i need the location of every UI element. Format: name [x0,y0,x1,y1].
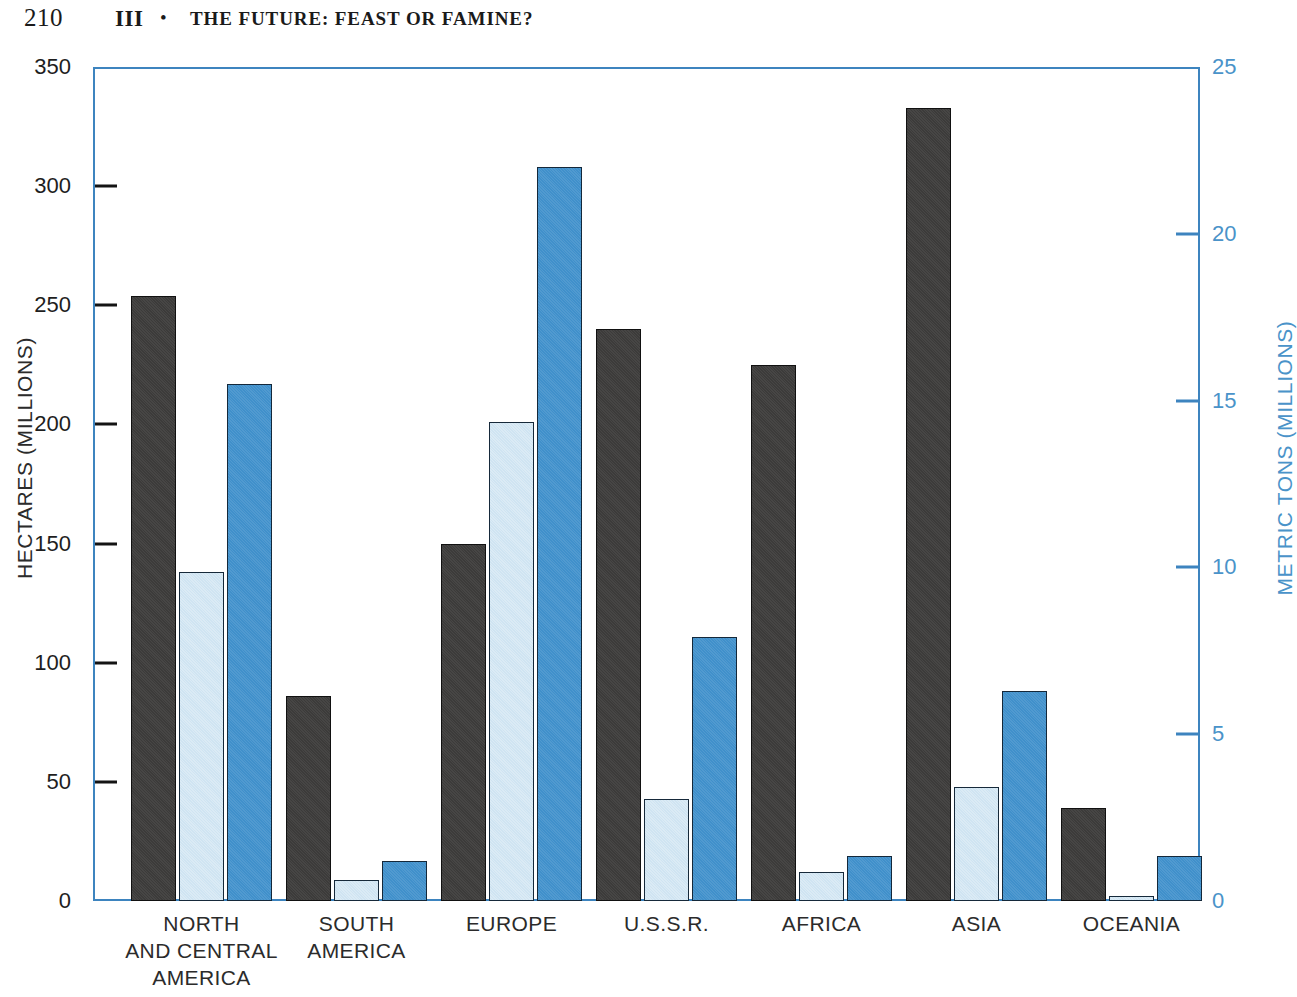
right-tick-label: 15 [1212,388,1282,414]
bar-group [131,67,272,901]
bar-pale-blue-series[interactable] [489,422,534,901]
bar-pale-blue-series[interactable] [334,880,379,901]
left-tick-label: 50 [0,769,93,795]
bar-blue-series[interactable] [382,861,427,901]
x-axis-label: OCEANIA [1016,910,1247,937]
right-tick-label: 5 [1212,721,1282,747]
bar-pale-blue-series[interactable] [179,572,224,901]
running-head: 210 III • THE FUTURE: FEAST OR FAMINE? [0,0,1291,46]
left-tick-label: 200 [0,411,93,437]
right-tick-label: 20 [1212,221,1282,247]
page-number: 210 [24,4,63,32]
right-tick-label: 10 [1212,554,1282,580]
bar-groups [93,67,1200,901]
chapter-title: THE FUTURE: FEAST OR FAMINE? [190,8,533,30]
x-axis-label-line: AMERICA [86,964,317,991]
bar-chart-figure: HECTARES (MILLIONS) METRIC TONS (MILLION… [0,46,1291,997]
bar-pale-blue-series[interactable] [1109,896,1154,901]
bar-dark-series[interactable] [286,696,331,901]
bar-dark-series[interactable] [441,544,486,901]
bar-dark-series[interactable] [1061,808,1106,901]
bar-group [441,67,582,901]
left-tick-label: 250 [0,292,93,318]
bar-dark-series[interactable] [906,108,951,901]
bar-blue-series[interactable] [227,384,272,901]
left-tick-label: 300 [0,173,93,199]
bar-group [751,67,892,901]
bar-blue-series[interactable] [847,856,892,901]
bar-group [596,67,737,901]
left-tick-label: 100 [0,650,93,676]
bar-pale-blue-series[interactable] [644,799,689,901]
part-number: III [115,6,143,32]
bar-pale-blue-series[interactable] [799,872,844,901]
left-tick-label: 150 [0,531,93,557]
bar-pale-blue-series[interactable] [954,787,999,901]
right-axis-title: METRIC TONS (MILLIONS) [1273,258,1297,658]
x-axis-label-line: OCEANIA [1016,910,1247,937]
x-axis-label-line: AMERICA [241,937,472,964]
left-tick-label: 0 [0,888,93,914]
bar-dark-series[interactable] [751,365,796,901]
bar-blue-series[interactable] [537,167,582,901]
bar-blue-series[interactable] [1002,691,1047,901]
bar-group [1061,67,1202,901]
bullet-separator-icon: • [160,7,167,29]
right-tick-label: 25 [1212,54,1282,80]
bar-dark-series[interactable] [596,329,641,901]
bar-group [906,67,1047,901]
left-tick-label: 350 [0,54,93,80]
bar-blue-series[interactable] [1157,856,1202,901]
bar-dark-series[interactable] [131,296,176,901]
x-axis-labels: NORTHAND CENTRALAMERICASOUTHAMERICAEUROP… [93,910,1200,997]
bar-group [286,67,427,901]
bar-blue-series[interactable] [692,637,737,901]
